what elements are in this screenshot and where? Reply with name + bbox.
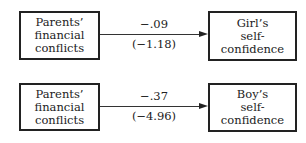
target-line-2: self- [240, 30, 264, 43]
path-arrow-line-boys [100, 106, 200, 107]
target-line-3: confidence [221, 114, 284, 127]
t-value-label-boys: (−4.96) [104, 110, 204, 123]
coefficient-label-girls: −.09 [104, 18, 204, 31]
target-line-1: Girl’s [237, 17, 269, 30]
source-line-1: Parents’ [36, 88, 84, 101]
source-box-girls: Parents’ financial conflicts [19, 11, 100, 60]
target-line-3: confidence [221, 43, 284, 56]
source-line-3: conflicts [35, 42, 84, 55]
arrowhead-icon [199, 31, 208, 37]
source-box-boys: Parents’ financial conflicts [19, 83, 100, 131]
arrowhead-icon [199, 103, 208, 109]
target-box-girls: Girl’s self- confidence [208, 11, 297, 61]
t-value-label-girls: (−1.18) [104, 38, 204, 51]
coefficient-label-boys: −.37 [104, 90, 204, 103]
source-line-2: financial [35, 101, 85, 114]
path-arrow-line-girls [100, 34, 200, 35]
source-line-3: conflicts [35, 114, 84, 127]
target-box-boys: Boy’s self- confidence [208, 83, 297, 132]
